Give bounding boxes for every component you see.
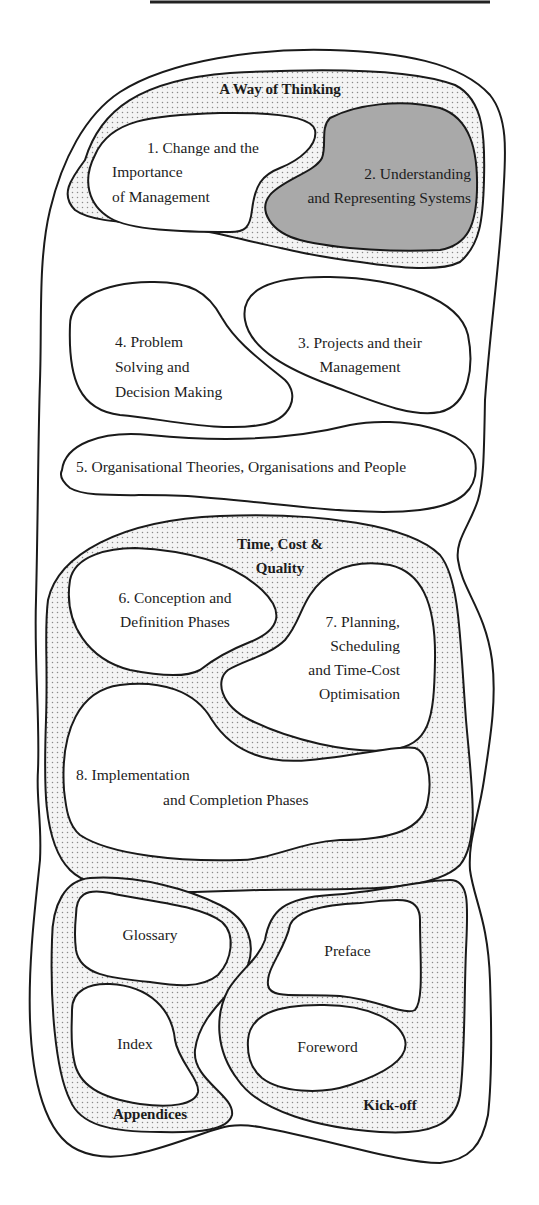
label-preface: Preface xyxy=(300,939,395,963)
label-ch1-line3: of Management xyxy=(112,185,210,209)
label-ch7-line1: 7. Planning, xyxy=(326,610,401,634)
group-label-kick-off: Kick-off xyxy=(350,1094,430,1116)
label-ch7-line2: Scheduling xyxy=(330,634,400,658)
label-ch8-line2: and Completion Phases xyxy=(163,788,309,812)
label-ch4-line3: Decision Making xyxy=(115,380,222,404)
label-ch6-line1: 6. Conception and xyxy=(90,586,260,610)
label-ch2-line1: 2. Understanding xyxy=(364,162,471,186)
label-ch3-line2: Management xyxy=(280,355,440,379)
label-ch1-line1: 1. Change and the xyxy=(118,136,288,160)
label-ch7-line4: Optimisation xyxy=(319,682,400,706)
label-glossary: Glossary xyxy=(100,923,200,947)
label-ch1-line2: Importance xyxy=(112,160,183,184)
group-label-time-cost-quality-line2: Quality xyxy=(220,557,340,579)
group-label-appendices: Appendices xyxy=(100,1103,200,1125)
group-label-time-cost-quality-line1: Time, Cost & xyxy=(220,533,340,555)
label-index: Index xyxy=(85,1032,185,1056)
label-ch4-line2: Solving and xyxy=(115,355,190,379)
label-ch3-line1: 3. Projects and their xyxy=(280,331,440,355)
label-ch4-line1: 4. Problem xyxy=(115,330,183,354)
label-ch2-line2: and Representing Systems xyxy=(307,186,471,210)
label-foreword: Foreword xyxy=(280,1035,375,1059)
group-label-way-of-thinking: A Way of Thinking xyxy=(200,78,360,100)
label-ch5: 5. Organisational Theories, Organisation… xyxy=(76,455,406,479)
label-ch8-line1: 8. Implementation xyxy=(76,763,190,787)
label-ch6-line2: Definition Phases xyxy=(90,610,260,634)
label-ch7-line3: and Time-Cost xyxy=(308,658,400,682)
